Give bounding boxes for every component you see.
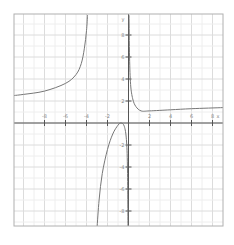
function-plot: -8-6-4-224688642-2-4-6-8xy	[0, 0, 234, 245]
y-tick-label: -2	[120, 142, 125, 148]
curve-branch	[14, 15, 88, 95]
x-tick-label: -2	[105, 113, 110, 119]
y-tick-label: 2	[121, 98, 124, 104]
x-axis-label: x	[217, 113, 220, 119]
x-tick-label: 8	[211, 113, 214, 119]
y-tick-label: 4	[121, 76, 124, 82]
curve-branch	[129, 15, 223, 111]
y-tick-label: -8	[120, 208, 125, 214]
y-tick-label: -4	[120, 164, 125, 170]
y-tick-label: 6	[121, 54, 124, 60]
y-axis-label: y	[122, 16, 125, 23]
y-tick-label: 8	[121, 32, 124, 38]
y-tick-label: -6	[120, 186, 125, 192]
x-tick-label: -4	[84, 113, 89, 119]
x-tick-label: -6	[63, 113, 68, 119]
x-tick-label: 2	[148, 113, 151, 119]
x-tick-label: 4	[169, 113, 172, 119]
x-tick-label: -8	[42, 113, 47, 119]
x-tick-label: 6	[190, 113, 193, 119]
